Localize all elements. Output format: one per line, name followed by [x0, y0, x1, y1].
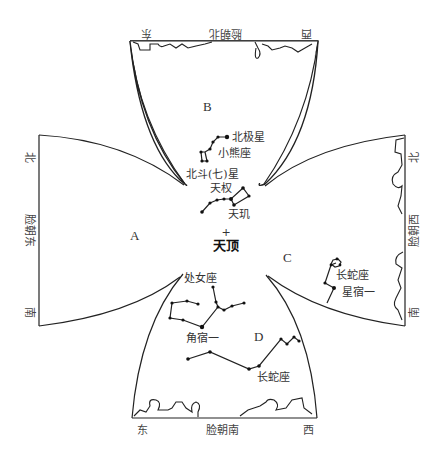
- label-hydra-south: 长蛇座: [257, 370, 290, 384]
- label-alphard: 星宿一: [342, 285, 375, 299]
- panel-c-west: [265, 135, 405, 326]
- panel-letter-c: C: [283, 250, 292, 265]
- panel-letter-b: B: [203, 99, 212, 114]
- label-west: 西: [303, 424, 314, 437]
- edge-labels-west: 北 脸朝西 南: [407, 152, 421, 318]
- label-face-west: 脸朝西: [407, 214, 421, 247]
- label-tianji: 天玑: [228, 208, 250, 221]
- label-hydra-west: 长蛇座: [336, 268, 369, 282]
- virgo-constellation: [168, 285, 245, 329]
- zenith-label: 天顶: [213, 238, 239, 253]
- label-tianquan: 天权: [210, 182, 232, 195]
- label-east: 东: [141, 27, 152, 40]
- panel-d-south: [132, 274, 317, 418]
- label-ursa-minor: 小熊座: [218, 146, 251, 160]
- edge-labels-north: 东 脸朝北 西: [141, 27, 312, 41]
- panel-b-north: [130, 41, 318, 185]
- panel-letter-d: D: [254, 329, 263, 344]
- label-face-east: 脸朝东: [23, 214, 37, 247]
- star-chart-diagram: 东 脸朝北 西 北 脸朝东 南 北 脸朝西 南 东 脸朝南 西 B A C D …: [0, 0, 446, 456]
- label-east: 东: [137, 424, 148, 437]
- edge-labels-east: 北 脸朝东 南: [23, 152, 37, 318]
- label-big-dipper: 北斗(七)星: [186, 168, 239, 181]
- edge-labels-south: 东 脸朝南 西: [137, 423, 314, 437]
- label-polaris: 北极星: [232, 130, 265, 144]
- panel-a-east: [39, 135, 184, 326]
- label-face-north: 脸朝北: [209, 27, 242, 41]
- label-south: 南: [408, 307, 421, 318]
- horizon-south: [134, 398, 312, 417]
- label-north: 北: [408, 152, 421, 163]
- label-west: 西: [301, 27, 312, 40]
- label-virgo: 处女座: [184, 271, 217, 285]
- horizon-west: [392, 138, 404, 320]
- label-north: 北: [23, 152, 36, 163]
- panel-letter-a: A: [130, 228, 140, 243]
- label-south: 南: [23, 307, 36, 318]
- label-face-south: 脸朝南: [206, 423, 239, 437]
- label-spica: 角宿一: [186, 331, 219, 345]
